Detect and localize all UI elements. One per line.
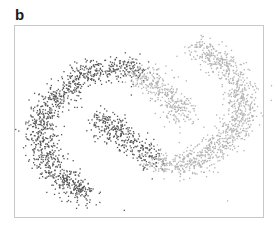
dark-cluster-point [82,187,83,188]
dark-cluster-point [143,156,144,157]
light-cluster-point [250,105,251,106]
light-cluster-point [247,121,248,122]
light-cluster-point [224,92,225,93]
light-cluster-point [180,160,181,161]
light-cluster-point [189,168,190,169]
dark-cluster-point [48,117,49,118]
dark-cluster-point [81,107,82,108]
dark-cluster-point [78,95,79,96]
light-cluster-point [235,123,236,124]
light-cluster-point [175,101,176,102]
dark-cluster-point [146,168,147,169]
light-cluster-point [240,71,241,72]
dark-cluster-point [114,136,115,137]
dark-cluster-point [108,65,109,66]
light-cluster-point [225,124,226,125]
dark-cluster-point [90,85,91,86]
light-cluster-point [150,91,151,92]
light-cluster-point [235,133,236,134]
light-cluster-point [196,158,197,159]
light-cluster-point [215,154,216,155]
light-cluster-point [256,116,257,117]
light-cluster-point [212,135,213,136]
dark-cluster-point [42,120,43,121]
light-cluster-point [209,63,210,64]
light-cluster-point [232,119,233,120]
dark-cluster-point [80,69,81,70]
dark-cluster-point [144,167,145,168]
light-cluster-point [228,76,229,77]
dark-cluster-point [136,146,137,147]
dark-cluster-point [117,139,118,140]
light-cluster-point [140,67,141,68]
dark-cluster-point [48,142,49,143]
dark-cluster-point [79,92,80,93]
light-cluster-point [174,168,175,169]
light-cluster-point [209,55,210,56]
light-cluster-point [161,161,162,162]
light-cluster-point [246,134,247,135]
dark-cluster-point [142,145,143,146]
light-cluster-point [222,62,223,63]
light-cluster-point [137,68,138,69]
dark-cluster-point [73,181,74,182]
light-cluster-point [159,156,160,157]
light-cluster-point [217,58,218,59]
light-cluster-point [252,120,253,121]
light-cluster-point [184,158,185,159]
dark-cluster-point [134,138,135,139]
light-cluster-point [250,81,251,82]
light-cluster-point [236,115,237,116]
dark-cluster-point [132,84,133,85]
dark-cluster-point [78,78,79,79]
dark-cluster-point [54,161,55,162]
dark-cluster-point [76,208,77,209]
dark-cluster-point [124,141,125,142]
dark-cluster-point [115,131,116,132]
light-cluster-point [175,122,176,123]
dark-cluster-point [49,152,50,153]
dark-cluster-point [57,167,58,168]
dark-cluster-point [53,185,54,186]
light-cluster-point [142,76,143,77]
dark-cluster-point [51,93,52,94]
light-cluster-point [255,97,256,98]
dark-cluster-point [111,121,112,122]
light-cluster-point [155,63,156,64]
light-cluster-point [217,172,218,173]
light-cluster-point [188,104,189,105]
light-cluster-point [226,62,227,63]
dark-cluster-point [102,122,103,123]
light-cluster-point [175,167,176,168]
dark-cluster-point [100,80,101,81]
dark-cluster-point [129,65,130,66]
light-cluster-point [218,59,219,60]
light-cluster-point [238,113,239,114]
dark-cluster-point [31,116,32,117]
dark-cluster-point [41,174,42,175]
dark-cluster-point [42,155,43,156]
dark-cluster-point [137,66,138,67]
dark-cluster-point [54,94,55,95]
light-cluster-point [242,123,243,124]
light-cluster-point [168,101,169,102]
light-cluster-point [207,147,208,148]
dark-cluster-point [33,126,34,127]
light-cluster-point [242,138,243,139]
light-cluster-point [227,155,228,156]
light-cluster-point [204,43,205,44]
light-cluster-point [175,121,176,122]
dark-cluster-point [111,129,112,130]
dark-cluster-point [89,123,90,124]
dark-cluster-point [60,149,61,150]
dark-cluster-point [100,105,101,106]
light-cluster-point [166,102,167,103]
light-cluster-point [184,102,185,103]
light-cluster-point [185,164,186,165]
dark-cluster-point [127,127,128,128]
dark-cluster-point [74,91,75,92]
dark-cluster-point [69,177,70,178]
dark-cluster-point [103,113,104,114]
light-cluster-point [213,171,214,172]
dark-cluster-point [113,65,114,66]
